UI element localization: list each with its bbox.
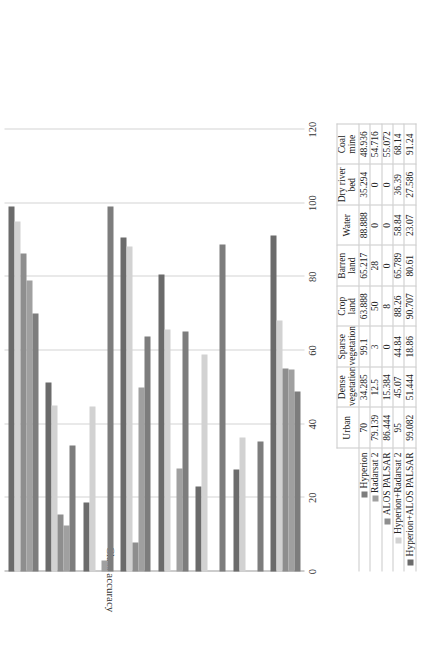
table-row: Radarsat 279.13912.5350280054.716 bbox=[370, 124, 381, 572]
data-cell: 0 bbox=[381, 205, 392, 246]
data-cell: 8 bbox=[381, 286, 392, 327]
table-row: ALOS PALSAR86.44415.3840800055.072 bbox=[381, 124, 392, 572]
table-row: Hyperion+ALOS PALSAR99.08251.44418.8690.… bbox=[404, 124, 416, 572]
bar bbox=[219, 244, 225, 571]
data-cell: 99.1 bbox=[358, 326, 369, 367]
bar bbox=[126, 246, 132, 571]
data-cell: 88.26 bbox=[392, 286, 403, 327]
table-header-row: UrbanDense vegetationSparse vegetationCr… bbox=[337, 124, 359, 572]
bar bbox=[132, 542, 138, 571]
table-row: Hyperion7034.28599.163.88865.21788.88835… bbox=[358, 124, 369, 572]
category-header-cell: Dry river bed bbox=[337, 164, 359, 205]
data-cell: 91.24 bbox=[404, 124, 416, 165]
rotated-figure: Class accuracy 020406080100120 UrbanDens… bbox=[0, 0, 421, 645]
bar bbox=[239, 437, 245, 571]
data-cell: 90.707 bbox=[404, 286, 416, 327]
data-cell: 48.936 bbox=[358, 124, 369, 165]
bar-group bbox=[42, 129, 80, 571]
bar bbox=[176, 468, 182, 571]
bar bbox=[26, 280, 32, 571]
data-cell: 0 bbox=[381, 326, 392, 367]
data-cell: 15.384 bbox=[381, 367, 392, 408]
legend-swatch-icon bbox=[361, 491, 367, 497]
value-tick-label: 40 bbox=[306, 418, 317, 429]
data-cell: 27.586 bbox=[404, 164, 416, 205]
category-header-cell: Dense vegetation bbox=[337, 367, 359, 408]
legend-label: ALOS PALSAR bbox=[381, 452, 391, 515]
data-cell: 65.217 bbox=[358, 245, 369, 286]
bar bbox=[32, 313, 38, 571]
category-header-cell: Barren land bbox=[337, 245, 359, 286]
data-cell: 3 bbox=[370, 326, 381, 367]
data-cell: 99.082 bbox=[404, 407, 416, 448]
data-cell: 35.294 bbox=[358, 164, 369, 205]
bar bbox=[69, 445, 75, 571]
bar-group bbox=[79, 129, 117, 571]
data-cell: 55.072 bbox=[381, 124, 392, 165]
legend-entry[interactable]: ALOS PALSAR bbox=[381, 448, 392, 572]
bar-group bbox=[267, 129, 305, 571]
data-cell: 63.888 bbox=[358, 286, 369, 327]
legend-entry[interactable]: Hyperion bbox=[358, 448, 369, 572]
bar-group bbox=[229, 129, 267, 571]
bar bbox=[288, 369, 294, 571]
bar bbox=[51, 405, 57, 571]
legend-swatch-icon bbox=[407, 559, 413, 565]
data-table-wrapper: UrbanDense vegetationSparse vegetationCr… bbox=[336, 129, 416, 571]
data-table: UrbanDense vegetationSparse vegetationCr… bbox=[336, 123, 416, 571]
bar bbox=[57, 514, 63, 571]
data-cell: 88.888 bbox=[358, 205, 369, 246]
data-cell: 44.84 bbox=[392, 326, 403, 367]
bar bbox=[282, 368, 288, 571]
data-cell: 34.285 bbox=[358, 367, 369, 408]
data-cell: 70 bbox=[358, 407, 369, 448]
bar bbox=[201, 354, 207, 571]
data-cell: 0 bbox=[381, 164, 392, 205]
bar-chart-figure: Class accuracy 020406080100120 UrbanDens… bbox=[0, 0, 421, 645]
bar bbox=[138, 387, 144, 571]
data-cell: 80.61 bbox=[404, 245, 416, 286]
value-tick-label: 80 bbox=[306, 271, 317, 282]
bar bbox=[158, 274, 164, 571]
legend-entry[interactable]: Hyperion+ALOS PALSAR bbox=[404, 448, 416, 572]
bar-group bbox=[4, 129, 42, 571]
bar bbox=[63, 525, 69, 571]
legend-swatch-icon bbox=[384, 518, 390, 524]
legend-entry[interactable]: Radarsat 2 bbox=[370, 448, 381, 572]
value-axis-ticks: 020406080100120 bbox=[306, 129, 332, 571]
legend-entry[interactable]: Hyperion+Radarsat 2 bbox=[392, 448, 403, 572]
bar bbox=[89, 406, 95, 571]
bar bbox=[164, 329, 170, 571]
bar bbox=[101, 560, 107, 571]
value-tick-label: 120 bbox=[306, 121, 317, 137]
table-corner-cell bbox=[337, 448, 359, 572]
bar bbox=[195, 486, 201, 571]
bar bbox=[83, 502, 89, 571]
plot-area bbox=[4, 129, 304, 571]
data-cell: 36.39 bbox=[392, 164, 403, 205]
bar-group bbox=[192, 129, 230, 571]
table-row: Hyperion+Radarsat 29545.0744.8488.2665.7… bbox=[392, 124, 403, 572]
value-tick-label: 60 bbox=[306, 345, 317, 356]
legend-label: Radarsat 2 bbox=[370, 452, 380, 492]
data-cell: 0 bbox=[370, 164, 381, 205]
data-cell: 79.139 bbox=[370, 407, 381, 448]
data-cell: 18.86 bbox=[404, 326, 416, 367]
data-table-body: UrbanDense vegetationSparse vegetationCr… bbox=[337, 124, 416, 572]
data-cell: 58.84 bbox=[392, 205, 403, 246]
bar bbox=[14, 221, 20, 571]
bar bbox=[294, 391, 300, 571]
category-header-cell: Water bbox=[337, 205, 359, 246]
bar-group bbox=[117, 129, 155, 571]
data-cell: 0 bbox=[370, 205, 381, 246]
category-header-cell: Crop land bbox=[337, 286, 359, 327]
data-cell: 23.07 bbox=[404, 205, 416, 246]
category-header-cell: Urban bbox=[337, 407, 359, 448]
data-cell: 68.14 bbox=[392, 124, 403, 165]
bar bbox=[276, 320, 282, 571]
bar bbox=[120, 237, 126, 571]
legend-swatch-icon bbox=[395, 537, 401, 543]
bar bbox=[233, 469, 239, 571]
value-tick-label: 100 bbox=[306, 195, 317, 211]
bar bbox=[270, 235, 276, 571]
